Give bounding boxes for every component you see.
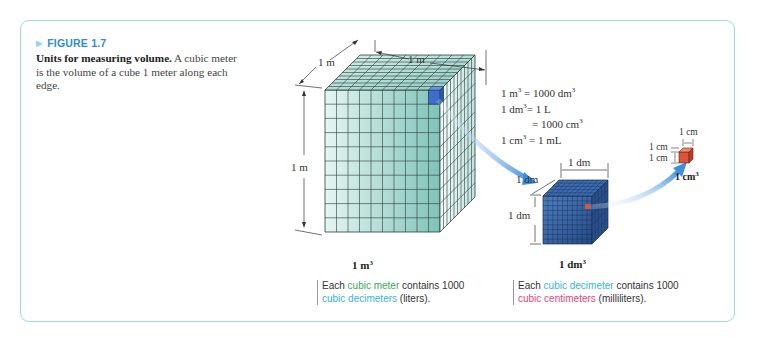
cm-edge-label-depth: 1 cm	[649, 142, 668, 152]
equation-row: 1 m3 = 1000 dm3	[501, 84, 583, 100]
cm-edge-label-height: 1 cm	[649, 153, 668, 163]
dm-volume-label: 1 dm3	[559, 258, 587, 270]
equation-row: = 1000 cm3	[501, 115, 583, 131]
note-cubic-meter: Each cubic meter contains 1000 cubic dec…	[317, 280, 464, 305]
dm-edge-label-depth: 1 dm	[516, 173, 539, 185]
cubic-meter-cube	[325, 55, 475, 232]
meter-volume-label: 1 m3	[352, 259, 373, 271]
term-cubic-decimeters: cubic decimeters	[322, 293, 397, 304]
equation-row: 1 cm3 = 1 mL	[501, 131, 583, 147]
meter-edge-label-top: 1 m	[408, 53, 425, 65]
cm-edge-label-top: 1 cm	[679, 127, 698, 137]
term-cubic-centimeters: cubic centimeters	[518, 293, 596, 304]
cm-volume-label: 1 cm3	[675, 170, 699, 182]
dm-edge-label-top: 1 dm	[568, 156, 591, 168]
note-cubic-decimeter: Each cubic decimeter contains 1000 cubic…	[513, 280, 679, 305]
cubic-decimeter-cube	[543, 180, 608, 244]
cubic-centimeter-cube	[679, 148, 693, 163]
meter-edge-label-height: 1 m	[291, 161, 308, 173]
term-cubic-meter: cubic meter	[348, 280, 400, 291]
equation-row: 1 dm3= 1 L	[501, 100, 583, 116]
meter-edge-label-depth: 1 m	[318, 56, 335, 68]
dm-edge-label-height: 1 dm	[508, 209, 531, 221]
highlight-cm-cube	[585, 204, 590, 209]
term-cubic-decimeter: cubic decimeter	[544, 280, 614, 291]
conversion-equations: 1 m3 = 1000 dm3 1 dm3= 1 L = 1000 cm3 1 …	[501, 84, 583, 147]
